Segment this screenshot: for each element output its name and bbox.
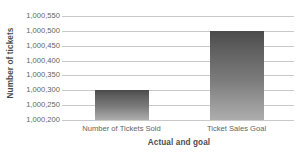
x-axis-title: Actual and goal (64, 138, 294, 148)
gridline (64, 120, 294, 121)
y-axis-tick-label: 1,000,300 (8, 86, 60, 94)
bar-chart: Number of tickets 1,000,5501,000,5001,00… (0, 0, 308, 152)
y-axis-tick-label: 1,000,200 (8, 116, 60, 124)
bar[interactable] (210, 31, 264, 120)
bar[interactable] (95, 90, 149, 120)
x-axis-tick-label: Ticket Sales Goal (167, 124, 307, 133)
y-axis-tick-label: 1,000,500 (8, 27, 60, 35)
y-axis-tick-label: 1,000,350 (8, 71, 60, 79)
y-axis-tick-label: 1,000,250 (8, 101, 60, 109)
gridline (64, 16, 294, 17)
y-axis-tick-label: 1,000,550 (8, 12, 60, 20)
y-axis-tick-label: 1,000,400 (8, 57, 60, 65)
plot-area (64, 16, 294, 120)
y-axis-tick-label: 1,000,450 (8, 42, 60, 50)
